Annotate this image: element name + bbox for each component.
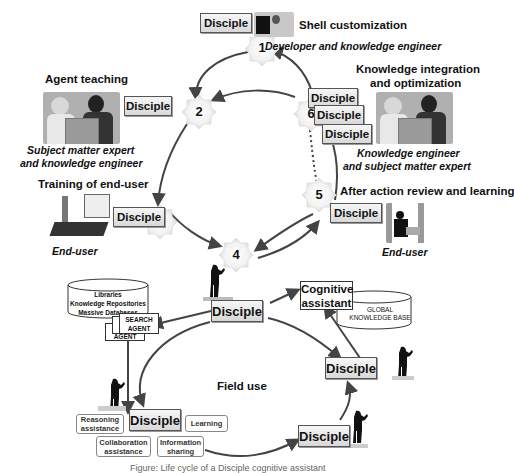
stage-number-5: 5 [309, 187, 329, 202]
end-user-desk-image [386, 203, 426, 243]
stage-6-role-line-1: Knowledge engineer [357, 147, 460, 159]
field-disciple-center: Disciple [211, 300, 263, 322]
information-sharing-callout: Information sharing [157, 436, 204, 457]
disciple-box-stage-2: Disciple [124, 96, 172, 116]
expert-engineer-image [43, 92, 120, 144]
developer-image [254, 12, 294, 37]
stage-6-role-line-2: and subject matter expert [343, 160, 471, 172]
stage-2-title: Agent teaching [45, 73, 128, 85]
reasoning-assistance-callout: Reasoning assistance [76, 414, 124, 434]
stage-5-role: End-user [382, 246, 428, 258]
stage-2-role-line-1: Subject matter expert [27, 144, 134, 156]
global-kb-line-2: KNOWLEDGE BASE [345, 313, 415, 322]
field-disciple-left: Disciple [129, 409, 181, 431]
training-image [48, 192, 110, 238]
stage-3-title: Training of end-user [38, 178, 149, 190]
disciple-box-stage-3: Disciple [113, 207, 165, 227]
field-use-label: Field use [217, 380, 267, 392]
field-disciple-bottom-right: Disciple [298, 425, 350, 447]
stage-6-title-line-1: Knowledge integration [356, 63, 480, 75]
disciple-box-stage-5: Disciple [330, 203, 382, 223]
stage-number-2: 2 [189, 104, 209, 119]
stage-number-4: 4 [226, 247, 246, 262]
stage-2-role-line-2: and knowledge engineer [20, 157, 143, 169]
stage-6-title-line-2: and optimization [370, 77, 461, 89]
disciple-box-stage-6-b: Disciple [314, 105, 364, 125]
learning-callout: Learning [185, 415, 228, 432]
stage-3-role: End-user [52, 245, 98, 257]
collaboration-assistance-callout: Collaboration assistance [96, 436, 151, 457]
stage-1-role: Developer and knowledge engineer [265, 40, 441, 52]
figure-caption: Figure: Life cycle of a Disciple cogniti… [130, 463, 326, 473]
stage-1-title: Shell customization [299, 19, 407, 31]
database-line-2: Knowledge Repositories [68, 299, 148, 308]
disciple-box-stage-1: Disciple [200, 13, 252, 33]
stage-5-title: After action review and learning [340, 185, 514, 197]
disciple-box-stage-6-c: Disciple [322, 124, 372, 144]
engineer-expert-image [376, 92, 453, 144]
database-line-1: Libraries [68, 290, 148, 299]
field-disciple-right: Disciple [325, 357, 377, 379]
search-agent-box: SEARCH AGENT [119, 313, 159, 334]
